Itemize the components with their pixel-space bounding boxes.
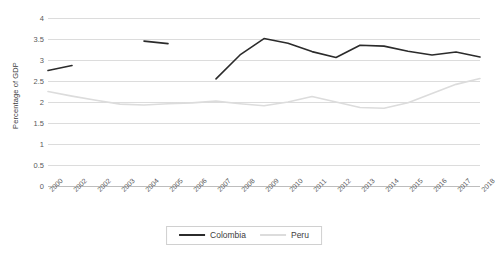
legend-label: Peru xyxy=(291,230,309,240)
y-axis-tick-label: 0.5 xyxy=(34,161,44,170)
x-axis-tick-label: 2018 xyxy=(480,177,496,193)
series-line-colombia xyxy=(48,65,72,70)
y-axis-title-label: Percentage of GDP xyxy=(11,62,20,129)
series-line-peru xyxy=(48,78,480,108)
legend-item-peru[interactable]: Peru xyxy=(260,230,309,240)
legend-item-colombia[interactable]: Colombia xyxy=(179,230,246,240)
y-axis-tick-label: 0 xyxy=(40,182,44,191)
y-axis-title: Percentage of GDP xyxy=(8,0,22,190)
legend-swatch-icon xyxy=(260,234,286,236)
series-line-colombia xyxy=(144,41,168,44)
y-axis-tick-label: 2.5 xyxy=(34,77,44,86)
y-axis-tick-label: 3.5 xyxy=(34,35,44,44)
legend-label: Colombia xyxy=(210,230,246,240)
chart-legend: ColombiaPeru xyxy=(166,226,322,245)
series-layer xyxy=(48,18,480,186)
y-axis-tick-label: 1 xyxy=(40,140,44,149)
y-axis-tick-label: 2 xyxy=(40,98,44,107)
y-axis-tick-label: 3 xyxy=(40,56,44,65)
plot-area xyxy=(48,18,480,186)
series-line-colombia xyxy=(216,39,480,79)
y-axis-tick-label: 4 xyxy=(40,14,44,23)
legend-swatch-icon xyxy=(179,234,205,236)
y-axis-tick-labels: 43.532.521.510.50 xyxy=(22,0,44,190)
y-axis-tick-label: 1.5 xyxy=(34,119,44,128)
x-axis-tick-labels: 2000200220022003200420052006200720082009… xyxy=(48,186,480,220)
